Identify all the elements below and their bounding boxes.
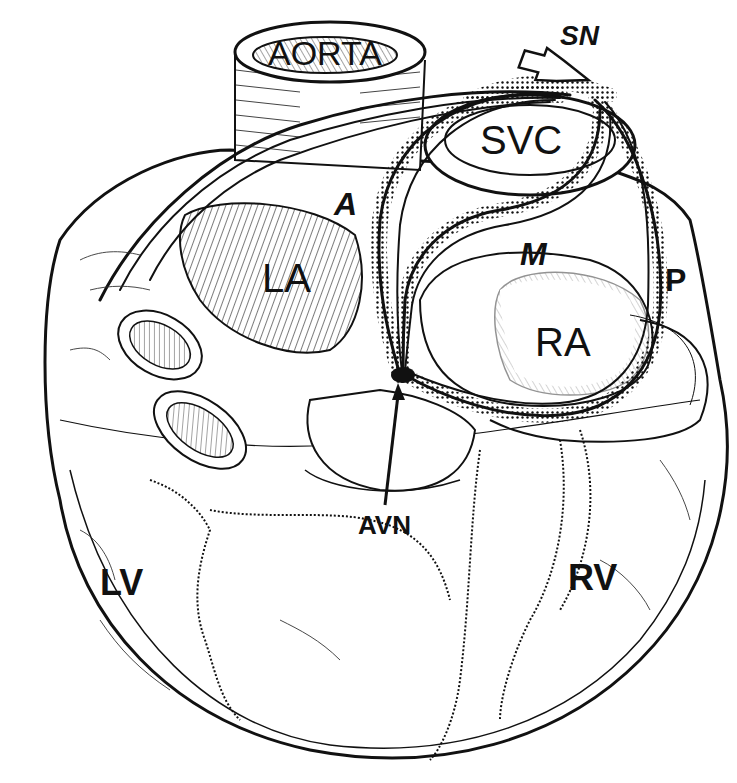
label-av-node: AVN bbox=[358, 512, 411, 538]
label-svc: SVC bbox=[480, 120, 562, 160]
label-middle-tract: M bbox=[520, 238, 547, 270]
heart-diagram: AORTA SVC SN A LA M P RA AVN LV RV bbox=[0, 0, 737, 783]
label-right-ventricle: RV bbox=[568, 560, 617, 596]
label-anterior-tract: A bbox=[334, 188, 357, 220]
label-posterior-tract: P bbox=[665, 264, 686, 296]
label-left-atrium: LA bbox=[262, 258, 311, 298]
label-right-atrium: RA bbox=[535, 322, 591, 362]
label-sn: SN bbox=[560, 22, 599, 50]
label-left-ventricle: LV bbox=[100, 565, 143, 601]
label-aorta: AORTA bbox=[268, 36, 382, 70]
heart-illustration bbox=[0, 0, 737, 783]
